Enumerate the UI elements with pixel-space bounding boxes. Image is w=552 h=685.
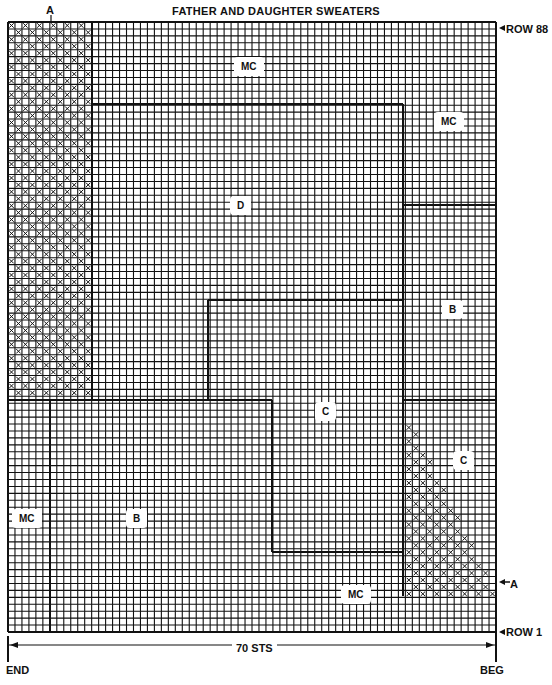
region-label-b-left: B bbox=[128, 511, 145, 526]
region-label-b-right: B bbox=[444, 302, 461, 317]
region-label-mc-left: MC bbox=[14, 511, 40, 526]
region-label-mc-top: MC bbox=[236, 59, 262, 74]
right-marker-label: A bbox=[510, 578, 518, 590]
knitting-chart-grid bbox=[0, 0, 552, 685]
end-label: END bbox=[6, 664, 29, 676]
row-88-label: ROW 88 bbox=[506, 23, 548, 35]
beg-label: BEG bbox=[480, 664, 504, 676]
stitch-count-label: 70 STS bbox=[232, 642, 277, 654]
top-marker-label: A bbox=[46, 4, 54, 16]
region-label-mc-bottom: MC bbox=[343, 587, 369, 602]
row-1-label: ROW 1 bbox=[506, 626, 542, 638]
region-label-c-center: C bbox=[317, 404, 334, 419]
region-label-mc-right: MC bbox=[436, 114, 462, 129]
region-label-d: D bbox=[232, 198, 249, 213]
region-label-c-right: C bbox=[455, 453, 472, 468]
